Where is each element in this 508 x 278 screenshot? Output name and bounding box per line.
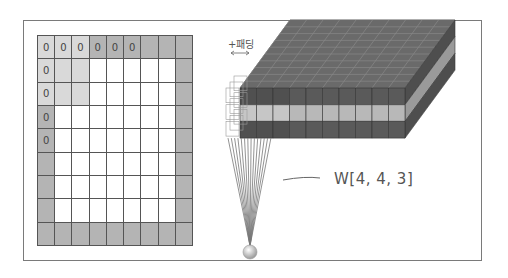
output-neuron-icon [243,245,257,259]
weight-shape-label: W[4, 4, 3] [334,170,413,188]
padding-label: +패딩 [228,36,254,51]
kernel-connection-lines [228,138,271,246]
feature-volume [226,20,455,138]
leader-line [283,177,320,180]
